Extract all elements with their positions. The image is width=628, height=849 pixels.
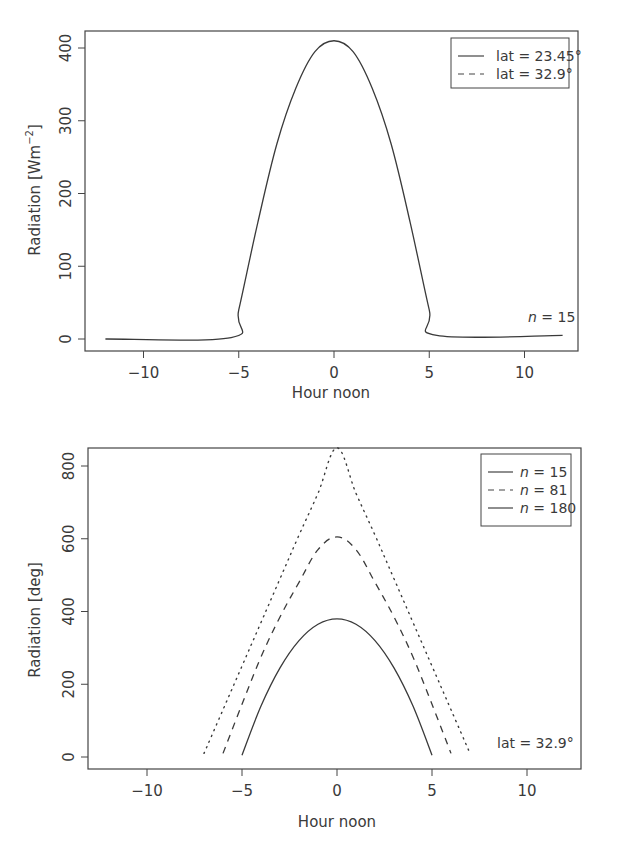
y-tick-label: 200 xyxy=(57,179,75,208)
top-chart: 0100200300400 −10−50510 Hour noon Radiat… xyxy=(24,31,582,402)
y-tick-label: 400 xyxy=(60,597,78,626)
y-tick-label: 400 xyxy=(57,34,75,63)
series-line xyxy=(223,537,451,753)
x-tick-label: 10 xyxy=(517,782,536,800)
bottom-y-axis-label: Radiation [deg] xyxy=(26,562,44,678)
top-legend: lat = 23.45° lat = 32.9° xyxy=(451,38,582,88)
y-tick-label: 200 xyxy=(60,670,78,699)
top-y-axis-label: Radiation [Wm−2] xyxy=(24,124,44,256)
bottom-series-lines xyxy=(204,448,470,755)
x-tick-label: −10 xyxy=(128,364,160,382)
x-tick-label: 5 xyxy=(427,782,437,800)
x-tick-label: 5 xyxy=(424,364,434,382)
y-tick-label: 0 xyxy=(57,334,75,344)
top-x-axis: −10−50510 xyxy=(128,351,534,382)
legend-label: n = 81 xyxy=(520,482,567,498)
y-tick-label: 0 xyxy=(60,752,78,762)
x-tick-label: 10 xyxy=(515,364,534,382)
x-tick-label: −10 xyxy=(131,782,163,800)
bottom-legend: n = 15 n = 81 n = 180 xyxy=(481,454,576,526)
top-y-axis: 0100200300400 xyxy=(57,34,85,344)
x-tick-label: 0 xyxy=(329,364,339,382)
bottom-y-axis: 0200400600800 xyxy=(60,452,88,762)
legend-label: n = 15 xyxy=(520,464,567,480)
bottom-x-axis: −10−50510 xyxy=(131,769,536,800)
y-tick-label: 800 xyxy=(60,452,78,481)
legend-label: lat = 32.9° xyxy=(496,66,573,82)
x-tick-label: 0 xyxy=(332,782,342,800)
top-x-axis-label: Hour noon xyxy=(292,384,370,402)
series-line xyxy=(204,448,470,754)
x-tick-label: −5 xyxy=(231,782,253,800)
bottom-chart: 0200400600800 −10−50510 Hour noon Radiat… xyxy=(26,448,581,831)
y-tick-label: 300 xyxy=(57,106,75,135)
y-tick-label: 100 xyxy=(57,252,75,281)
series-line xyxy=(242,619,432,755)
legend-label: n = 180 xyxy=(520,500,576,516)
chart-canvas: 0100200300400 −10−50510 Hour noon Radiat… xyxy=(0,0,628,849)
bottom-annotation: lat = 32.9° xyxy=(497,735,574,751)
bottom-x-axis-label: Hour noon xyxy=(298,813,376,831)
legend-label: lat = 23.45° xyxy=(496,48,582,64)
x-tick-label: −5 xyxy=(228,364,250,382)
y-tick-label: 600 xyxy=(60,524,78,553)
top-annotation: n = 15 xyxy=(528,309,575,325)
